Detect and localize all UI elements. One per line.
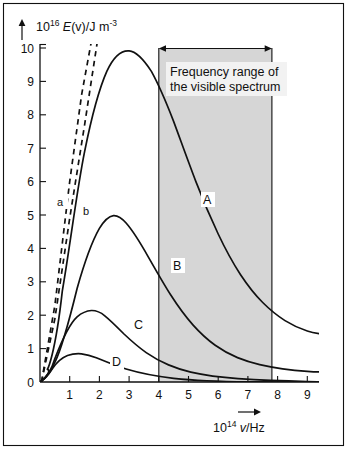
x-axis-label: 1014 v/Hz [213,419,265,435]
svg-text:9: 9 [27,75,34,89]
svg-text:8: 8 [274,388,281,402]
svg-text:3: 3 [126,388,133,402]
annotation-line2: the visible spectrum [170,80,280,94]
y-axis-arrow-icon [19,19,26,40]
svg-text:2: 2 [96,388,103,402]
svg-text:5: 5 [185,388,192,402]
svg-text:5: 5 [27,209,34,223]
curve-A-label: A [203,193,212,207]
svg-text:10: 10 [21,42,35,56]
y-tick-group: 10 9 8 7 6 5 4 3 2 1 0 [21,42,46,390]
svg-text:7: 7 [27,142,34,156]
svg-text:6: 6 [215,388,222,402]
blackbody-spectrum-figure: 1016 E(v)/J m-3 Frequency range of the v… [0,0,347,449]
curve-b-label: b [83,205,89,217]
svg-text:3: 3 [27,275,34,289]
curve-C-label: C [134,318,143,332]
chart-svg: 1016 E(v)/J m-3 Frequency range of the v… [0,0,347,449]
curve-a-label: a [57,196,64,208]
svg-text:4: 4 [155,388,162,402]
svg-text:6: 6 [27,175,34,189]
svg-text:4: 4 [27,242,34,256]
svg-text:2: 2 [27,309,34,323]
curve-D-label: D [112,355,121,369]
x-axis-arrow-icon [238,409,261,416]
svg-text:1: 1 [27,342,34,356]
annotation-line1: Frequency range of [170,65,279,79]
curve-B-label: B [173,259,181,273]
svg-text:8: 8 [27,108,34,122]
svg-text:0: 0 [27,376,34,390]
svg-text:1: 1 [66,388,73,402]
svg-text:7: 7 [245,388,252,402]
svg-text:9: 9 [304,388,311,402]
y-axis-label: 1016 E(v)/J m-3 [36,18,117,34]
visible-spectrum-band [159,48,272,382]
